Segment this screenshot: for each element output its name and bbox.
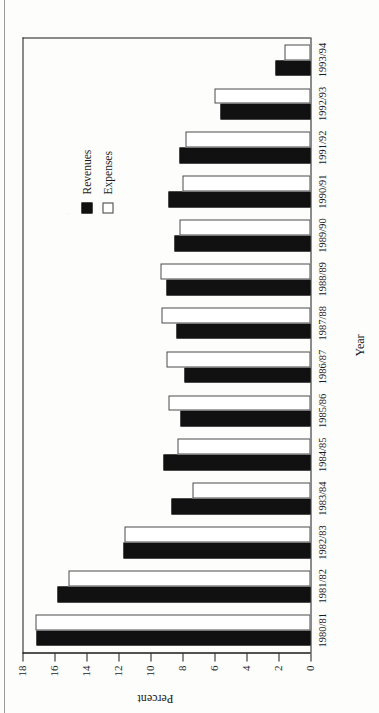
bar-group	[22, 345, 310, 389]
bar-revenues	[179, 147, 310, 163]
bar-expenses	[179, 219, 310, 235]
chart-legend: Revenues Expenses	[80, 149, 122, 213]
bar-group	[22, 432, 310, 476]
bar-expenses	[168, 395, 310, 411]
bar-expenses	[214, 88, 310, 104]
value-axis-tick	[246, 653, 247, 661]
category-axis-title: Year	[352, 37, 367, 653]
bar-expenses	[192, 482, 310, 498]
category-tick-label: 1992/93	[316, 86, 327, 120]
value-axis-tick	[278, 653, 279, 661]
bar-expenses	[185, 131, 310, 147]
bar-group	[22, 125, 310, 169]
bar-revenues	[275, 60, 310, 76]
category-tick-label: 1991/92	[316, 130, 327, 164]
category-tick-label: 1988/89	[316, 262, 327, 296]
bar-group	[22, 388, 310, 432]
bar-group	[22, 81, 310, 125]
bar-revenues	[171, 498, 310, 514]
bar-revenues	[36, 630, 310, 646]
category-tick-label: 1983/84	[316, 481, 327, 515]
value-axis-tick	[150, 653, 151, 661]
bar-group	[22, 213, 310, 257]
value-axis-tick	[54, 653, 55, 661]
value-axis-tick	[22, 653, 23, 661]
value-axis-title-wrap: Percent	[0, 689, 310, 707]
category-tick-label: 1985/86	[316, 393, 327, 427]
bar-revenues	[184, 367, 310, 383]
value-axis-title: Percent	[137, 691, 173, 706]
bar-revenues	[57, 586, 310, 602]
category-tick-label: 1986/87	[316, 349, 327, 383]
bar-expenses	[161, 307, 310, 323]
bar-revenues	[180, 410, 310, 426]
bar-revenues	[123, 542, 310, 558]
bar-revenues	[176, 323, 310, 339]
bar-expenses	[166, 351, 310, 367]
bar-expenses	[284, 44, 310, 60]
bar-expenses	[124, 526, 310, 542]
value-axis-tick	[118, 653, 119, 661]
legend-swatch-expenses-icon	[102, 202, 113, 213]
bar-expenses	[68, 570, 310, 586]
bar-group	[22, 608, 310, 652]
bar-revenues	[163, 454, 310, 470]
category-tick-label: 1989/90	[316, 218, 327, 252]
bar-group	[22, 257, 310, 301]
bar-group	[22, 476, 310, 520]
legend-label-expenses: Expenses	[101, 151, 113, 194]
category-tick-label: 1982/83	[316, 525, 327, 559]
bar-group	[22, 564, 310, 608]
bar-expenses	[35, 614, 310, 630]
bar-group	[22, 169, 310, 213]
bar-revenues	[166, 279, 310, 295]
category-tick-label: 1987/88	[316, 305, 327, 339]
bar-revenues	[174, 235, 310, 251]
legend-swatch-revenues-icon	[81, 202, 92, 213]
bar-revenues	[168, 191, 310, 207]
figure-page: 024681012141618 Percent Year 1980/811981…	[0, 0, 379, 713]
chart-area: 024681012141618 Percent Year 1980/811981…	[0, 0, 379, 713]
category-tick-label: 1990/91	[316, 174, 327, 208]
bar-expenses	[182, 175, 310, 191]
bar-group	[22, 520, 310, 564]
category-tick-label: 1980/81	[316, 612, 327, 646]
value-axis-tick	[182, 653, 183, 661]
category-tick-label: 1984/85	[316, 437, 327, 471]
category-tick-label: 1981/82	[316, 569, 327, 603]
bar-expenses	[177, 438, 310, 454]
rotated-chart-stage: 024681012141618 Percent Year 1980/811981…	[0, 0, 379, 713]
legend-entry-revenues: Revenues	[80, 149, 92, 213]
bar-expenses	[160, 263, 310, 279]
category-tick-label: 1993/94	[316, 42, 327, 76]
value-axis-tick	[310, 653, 311, 661]
bar-group	[22, 301, 310, 345]
bar-revenues	[220, 103, 310, 119]
value-axis-tick	[86, 653, 87, 661]
bar-groups	[22, 38, 310, 652]
bar-group	[22, 38, 310, 82]
legend-label-revenues: Revenues	[80, 149, 92, 194]
value-axis-tick	[214, 653, 215, 661]
legend-entry-expenses: Expenses	[101, 149, 113, 213]
